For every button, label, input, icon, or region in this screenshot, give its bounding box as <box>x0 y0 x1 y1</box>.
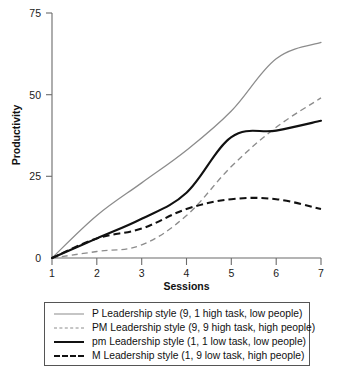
series-line-pm <box>52 121 321 258</box>
series-line-PM <box>52 98 321 258</box>
legend-item-M: M Leadership style (1, 9 low task, high … <box>54 349 309 363</box>
legend-label-PM: PM Leadership style (9, 9 high task, hig… <box>92 322 315 334</box>
x-tick-label-7: 7 <box>318 267 324 279</box>
x-tick-label-1: 1 <box>49 267 55 279</box>
y-tick-label-25: 25 <box>29 170 41 182</box>
x-tick-label-4: 4 <box>184 267 190 279</box>
x-tick-label-5: 5 <box>228 267 234 279</box>
chart-legend: P Leadership style (9, 1 high task, low … <box>44 302 310 366</box>
legend-swatch-thin-gray-dashed-line-icon <box>54 322 84 334</box>
y-tick-label-0: 0 <box>35 252 41 264</box>
legend-item-P: P Leadership style (9, 1 high task, low … <box>54 307 309 321</box>
y-tick-label-50: 50 <box>29 89 41 101</box>
legend-item-pm: pm Leadership style (1, 1 low task, low … <box>54 335 309 349</box>
productivity-line-chart: 75 50 25 0 1 2 3 4 5 6 7 Sessions Produc… <box>0 0 339 374</box>
legend-label-M: M Leadership style (1, 9 low task, high … <box>92 350 304 362</box>
legend-swatch-thick-black-solid-line-icon <box>54 336 84 348</box>
y-axis-title: Productivity <box>10 105 22 166</box>
legend-swatch-thick-black-dashed-line-icon <box>54 350 84 362</box>
plot-area: 75 50 25 0 1 2 3 4 5 6 7 Sessions Produc… <box>0 0 339 290</box>
y-tick-label-75: 75 <box>29 7 41 19</box>
x-axis-title: Sessions <box>163 280 209 290</box>
plot-svg: 75 50 25 0 1 2 3 4 5 6 7 Sessions Produc… <box>0 0 339 290</box>
legend-item-PM: PM Leadership style (9, 9 high task, hig… <box>54 321 309 335</box>
x-tick-label-3: 3 <box>139 267 145 279</box>
series-line-M <box>52 198 321 258</box>
legend-label-pm: pm Leadership style (1, 1 low task, low … <box>92 336 306 348</box>
legend-swatch-thin-gray-solid-line-icon <box>54 308 84 320</box>
legend-label-P: P Leadership style (9, 1 high task, low … <box>92 308 302 320</box>
x-tick-label-2: 2 <box>94 267 100 279</box>
x-tick-label-6: 6 <box>273 267 279 279</box>
series-line-P <box>52 42 321 258</box>
